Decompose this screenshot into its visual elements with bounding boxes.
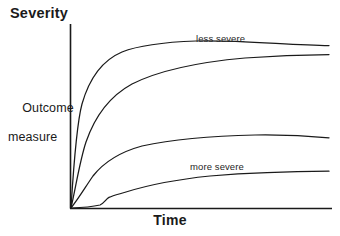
severity-chart-figure: Severity Outcome measure Time less sever… bbox=[0, 0, 340, 236]
curve-more-severe bbox=[71, 171, 329, 208]
annotation-less-severe: less severe bbox=[196, 33, 245, 44]
y-axis-label-line-1: Outcome bbox=[22, 101, 73, 115]
curve-2 bbox=[71, 55, 329, 208]
curve-less-severe bbox=[71, 41, 329, 208]
annotation-more-severe: more severe bbox=[190, 161, 244, 172]
y-axis-label: Outcome measure bbox=[8, 86, 74, 175]
x-axis-label: Time bbox=[0, 212, 340, 229]
y-axis-label-line-2: measure bbox=[8, 130, 74, 145]
chart-title: Severity bbox=[10, 5, 68, 22]
